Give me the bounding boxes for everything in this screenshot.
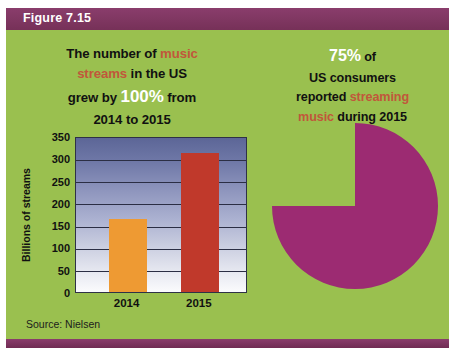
y-axis-tick-label: 100 — [52, 242, 70, 254]
y-axis-tick-label: 150 — [52, 220, 70, 232]
source-note: Source: Nielsen — [26, 318, 100, 330]
right-headline-percent-highlight: 75% — [329, 47, 361, 64]
figure-panel: Figure 7.15 The number of music streams … — [6, 8, 449, 348]
bar-chart: Billions of streams 05010015020025030035… — [26, 133, 250, 313]
figure-header-bar: Figure 7.15 — [6, 8, 449, 30]
y-axis-tick-label: 200 — [52, 198, 70, 210]
y-axis-tick-label: 300 — [52, 153, 70, 165]
right-panel: 75% of US consumers reported streaming m… — [256, 30, 449, 339]
right-headline-line4-tail: during 2015 — [334, 110, 407, 124]
right-headline: 75% of US consumers reported streaming m… — [258, 44, 447, 127]
left-headline-line3-text: grew by — [68, 90, 121, 105]
x-axis-label-2015: 2015 — [169, 297, 229, 309]
y-axis-tick-label: 50 — [58, 265, 70, 277]
x-axis-label-2014: 2014 — [97, 297, 157, 309]
left-headline-percent-highlight: 100% — [121, 87, 164, 106]
left-headline-line2-text: in the US — [127, 66, 187, 81]
right-headline-line3-text: reported — [296, 90, 350, 104]
figure-footer-bar — [6, 339, 449, 348]
y-axis-tick-label: 350 — [52, 131, 70, 143]
left-headline-line4-text: 2014 to 2015 — [93, 112, 170, 127]
y-axis-tick-label: 0 — [64, 287, 70, 299]
left-headline-line3-tail: from — [164, 90, 196, 105]
right-headline-line2-text: US consumers — [309, 71, 396, 85]
left-headline-streams-accent: streams — [77, 66, 127, 81]
pie-slice-streaming — [272, 123, 438, 289]
left-headline-music-accent: music — [160, 46, 198, 61]
right-headline-streaming-accent: streaming — [350, 90, 409, 104]
bar-chart-axis-layer: 050100150200250300350 — [75, 137, 247, 293]
pie-chart — [272, 123, 438, 289]
left-headline-line1-text: The number of — [66, 46, 160, 61]
bar-chart-y-axis-title: Billions of streams — [20, 167, 32, 263]
y-axis-tick-label: 250 — [52, 176, 70, 188]
right-headline-music-accent: music — [298, 110, 334, 124]
pie-chart-svg — [272, 123, 438, 289]
left-panel: The number of music streams in the US gr… — [6, 30, 256, 339]
figure-number-label: Figure 7.15 — [23, 11, 91, 25]
right-headline-line1-tail: of — [361, 50, 376, 64]
figure-root: Figure 7.15 The number of music streams … — [0, 0, 455, 357]
left-headline: The number of music streams in the US gr… — [14, 44, 250, 130]
